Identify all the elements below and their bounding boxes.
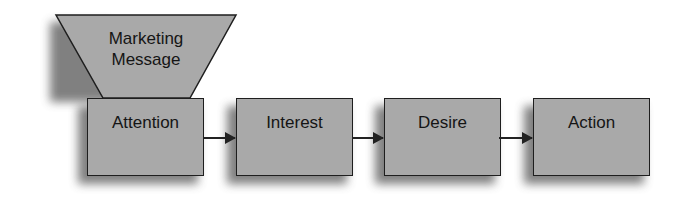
stage-label: Action [534, 113, 649, 133]
stage-label: Desire [385, 113, 500, 133]
stage-label: Attention [88, 113, 203, 133]
stage-box-action: Action [533, 98, 650, 176]
stage-box-attention: Attention [87, 98, 204, 176]
funnel-label: Marketing Message [96, 28, 196, 70]
stage-box-interest: Interest [236, 98, 353, 176]
arrow-attention-to-interest [204, 137, 235, 139]
stage-box-desire: Desire [384, 98, 501, 176]
arrow-desire-to-action [499, 137, 532, 139]
aida-diagram: Marketing Message Attention Interest Des… [0, 0, 689, 211]
stage-label: Interest [237, 113, 352, 133]
arrow-interest-to-desire [352, 137, 383, 139]
funnel-label-line1: Marketing [96, 28, 196, 49]
funnel-label-line2: Message [96, 49, 196, 70]
